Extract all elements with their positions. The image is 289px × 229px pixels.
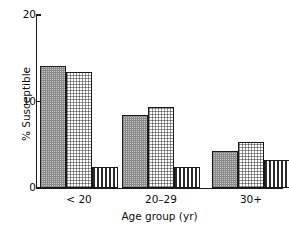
bar [264,160,289,188]
y-axis-tick-group: 20100 [0,0,36,229]
x-axis-line [36,188,283,189]
bar-group [40,15,118,188]
bar [238,142,264,188]
x-axis-tick-label: 30+ [211,193,289,205]
bar [212,151,238,188]
bar-chart: % Susceptible 20100 Age group (yr) < 202… [0,0,289,229]
x-axis-tick-label: 20–29 [121,193,201,205]
y-axis-tick-label: 10 [10,96,36,107]
bar-group [212,15,289,188]
bar [122,115,148,188]
bar [40,66,66,188]
x-axis-title: Age group (yr) [36,210,283,222]
y-axis-tick-label: 20 [10,9,36,20]
bar [92,167,118,188]
y-axis-tick-label: 0 [10,182,36,193]
bar [66,72,92,188]
bar [148,107,174,188]
bar [174,167,200,188]
bar-group [122,15,200,188]
y-axis-tick [36,187,41,188]
x-axis-tick-label: < 20 [39,193,119,205]
y-axis-tick [36,14,41,15]
plot-area [36,15,283,188]
y-axis-tick [36,101,41,102]
